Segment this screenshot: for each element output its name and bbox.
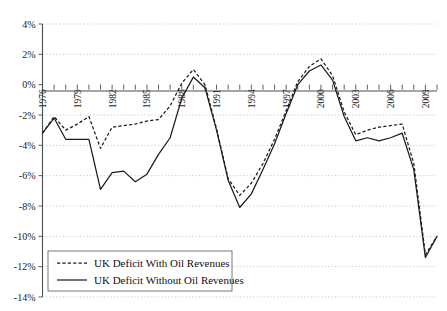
x-axis-tick-label: 1985 (142, 89, 152, 108)
x-axis-tick-label: 1982 (108, 89, 118, 108)
deficit-line-chart: 4%2%0%-2%-4%-6%-8%-10%-12%-14% 197619791… (0, 0, 447, 311)
y-axis-tick-label: -6% (19, 170, 36, 181)
y-axis-tick-label: -10% (14, 231, 36, 242)
legend-item-label: UK Deficit With Oil Revenues (94, 257, 230, 269)
x-axis-ticks (43, 85, 438, 90)
x-axis-tick-label: 2009 (421, 89, 431, 108)
y-axis-tick-label: -2% (19, 110, 36, 121)
x-axis-labels: 1976197919821985198819911994199720002003… (38, 89, 431, 108)
y-axis-tick-label: -12% (14, 261, 36, 272)
x-axis-tick-label: 2000 (316, 89, 326, 108)
y-axis-ticks (39, 24, 43, 297)
y-axis-tick-label: -8% (19, 201, 36, 212)
chart-container: 4%2%0%-2%-4%-6%-8%-10%-12%-14% 197619791… (0, 0, 447, 311)
x-axis-tick-label: 2003 (351, 89, 361, 108)
chart-legend: UK Deficit With Oil RevenuesUK Deficit W… (48, 251, 244, 291)
x-axis-tick-label: 1994 (247, 89, 257, 108)
series-line-2 (43, 65, 438, 258)
x-axis-tick-label: 2006 (386, 89, 396, 108)
x-axis-tick-label: 1979 (73, 89, 83, 108)
y-axis-tick-label: 0% (22, 79, 35, 90)
y-axis-tick-label: -4% (19, 140, 36, 151)
y-axis-tick-label: 2% (22, 49, 35, 60)
x-axis-tick-label: 1991 (212, 89, 222, 108)
y-axis-labels: 4%2%0%-2%-4%-6%-8%-10%-12%-14% (14, 19, 36, 303)
legend-item-label: UK Deficit Without Oil Revenues (94, 274, 244, 286)
y-axis-tick-label: -14% (14, 292, 36, 303)
y-axis-tick-label: 4% (22, 19, 35, 30)
